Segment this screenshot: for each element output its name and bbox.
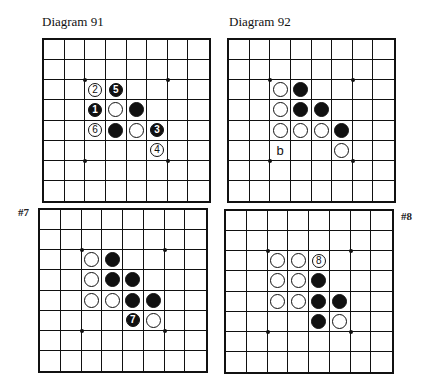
board-square[interactable] bbox=[168, 60, 189, 80]
board-square[interactable] bbox=[185, 270, 206, 290]
board-square[interactable] bbox=[332, 181, 353, 201]
board-square[interactable] bbox=[247, 352, 268, 372]
board-square[interactable] bbox=[188, 181, 209, 201]
board-square[interactable] bbox=[40, 210, 61, 230]
board-square[interactable] bbox=[332, 40, 353, 60]
board-square[interactable] bbox=[40, 250, 61, 270]
board-square[interactable] bbox=[85, 40, 106, 60]
board-square[interactable] bbox=[65, 60, 86, 80]
board-square[interactable] bbox=[185, 331, 206, 351]
board-square[interactable] bbox=[226, 271, 247, 291]
board-square[interactable] bbox=[185, 311, 206, 331]
board-square[interactable] bbox=[288, 352, 309, 372]
board-square[interactable] bbox=[185, 291, 206, 311]
board-square[interactable] bbox=[168, 80, 189, 100]
board-square[interactable] bbox=[165, 270, 186, 290]
board-square[interactable] bbox=[44, 80, 65, 100]
board-square[interactable] bbox=[229, 100, 250, 120]
board-square[interactable] bbox=[106, 100, 127, 120]
board-square[interactable] bbox=[123, 351, 144, 371]
board-square[interactable] bbox=[85, 60, 106, 80]
board-square[interactable]: 3 bbox=[147, 121, 168, 141]
board-square[interactable] bbox=[106, 40, 127, 60]
board-square[interactable] bbox=[371, 271, 392, 291]
board-square[interactable] bbox=[288, 211, 309, 231]
board-square[interactable] bbox=[229, 181, 250, 201]
board-square[interactable] bbox=[268, 312, 289, 332]
board-square[interactable] bbox=[40, 331, 61, 351]
board-square[interactable] bbox=[188, 141, 209, 161]
board-square[interactable] bbox=[373, 80, 394, 100]
board-square[interactable] bbox=[82, 351, 103, 371]
board-square[interactable] bbox=[250, 100, 271, 120]
board-square[interactable] bbox=[268, 271, 289, 291]
board-square[interactable] bbox=[123, 331, 144, 351]
board-square[interactable] bbox=[250, 161, 271, 181]
board-square[interactable] bbox=[65, 181, 86, 201]
board-square[interactable] bbox=[82, 210, 103, 230]
board-square[interactable] bbox=[291, 40, 312, 60]
board-square[interactable] bbox=[168, 181, 189, 201]
board-square[interactable] bbox=[312, 40, 333, 60]
board-square[interactable] bbox=[40, 230, 61, 250]
board-square[interactable] bbox=[268, 251, 289, 271]
board-square[interactable] bbox=[82, 311, 103, 331]
board-square[interactable] bbox=[127, 80, 148, 100]
board-square[interactable] bbox=[147, 60, 168, 80]
board-square[interactable] bbox=[102, 311, 123, 331]
board-square[interactable] bbox=[250, 181, 271, 201]
board-square[interactable] bbox=[270, 60, 291, 80]
board-square[interactable] bbox=[61, 230, 82, 250]
board-square[interactable] bbox=[65, 100, 86, 120]
board-square[interactable] bbox=[123, 250, 144, 270]
board-square[interactable] bbox=[40, 351, 61, 371]
board-square[interactable] bbox=[312, 80, 333, 100]
board-square[interactable] bbox=[229, 40, 250, 60]
board-square[interactable] bbox=[44, 121, 65, 141]
board-square[interactable]: 5 bbox=[106, 80, 127, 100]
board-square[interactable] bbox=[371, 312, 392, 332]
board-square[interactable] bbox=[127, 40, 148, 60]
board-square[interactable] bbox=[270, 181, 291, 201]
board-square[interactable] bbox=[144, 331, 165, 351]
board-square[interactable] bbox=[250, 80, 271, 100]
board-square[interactable] bbox=[288, 231, 309, 251]
board-square[interactable] bbox=[332, 121, 353, 141]
board-square[interactable] bbox=[44, 100, 65, 120]
board-square[interactable] bbox=[247, 211, 268, 231]
board-square[interactable] bbox=[65, 161, 86, 181]
board-square[interactable] bbox=[144, 210, 165, 230]
board-square[interactable] bbox=[226, 292, 247, 312]
board-square[interactable] bbox=[61, 331, 82, 351]
board-square[interactable] bbox=[351, 211, 372, 231]
board-square[interactable] bbox=[106, 141, 127, 161]
board-square[interactable] bbox=[168, 141, 189, 161]
board-square[interactable] bbox=[353, 40, 374, 60]
board-square[interactable] bbox=[40, 291, 61, 311]
board-square[interactable] bbox=[288, 251, 309, 271]
board-square[interactable] bbox=[247, 251, 268, 271]
board-square[interactable] bbox=[332, 141, 353, 161]
board-square[interactable] bbox=[291, 100, 312, 120]
board-square[interactable] bbox=[65, 40, 86, 60]
board-square[interactable] bbox=[102, 230, 123, 250]
board-square[interactable]: b bbox=[270, 141, 291, 161]
board-square[interactable]: 6 bbox=[85, 121, 106, 141]
board-square[interactable] bbox=[291, 80, 312, 100]
board-square[interactable] bbox=[226, 352, 247, 372]
board-square[interactable] bbox=[371, 292, 392, 312]
board-square[interactable] bbox=[123, 270, 144, 290]
board-square[interactable] bbox=[309, 211, 330, 231]
board-square[interactable] bbox=[165, 351, 186, 371]
board-square[interactable] bbox=[351, 332, 372, 352]
board-square[interactable] bbox=[330, 292, 351, 312]
board-square[interactable] bbox=[226, 231, 247, 251]
board-square[interactable] bbox=[250, 40, 271, 60]
board-square[interactable] bbox=[165, 230, 186, 250]
board-square[interactable] bbox=[188, 40, 209, 60]
board-square[interactable] bbox=[44, 141, 65, 161]
board-square[interactable] bbox=[351, 271, 372, 291]
board-square[interactable] bbox=[147, 100, 168, 120]
board-square[interactable] bbox=[102, 331, 123, 351]
board-square[interactable] bbox=[229, 60, 250, 80]
